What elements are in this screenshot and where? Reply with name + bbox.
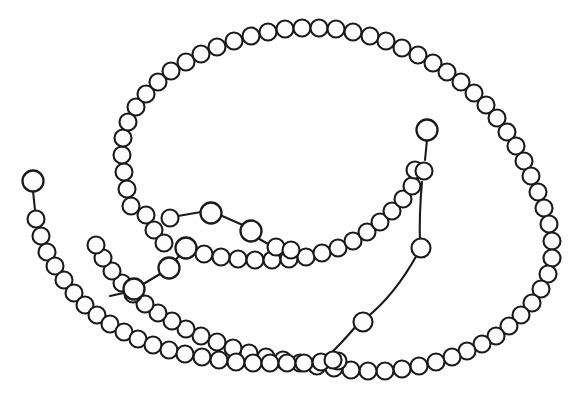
bead [88,237,105,254]
bead [114,147,131,164]
bead [177,346,194,363]
bead [360,363,377,380]
cord-left-stem [33,191,35,210]
bead [394,361,411,378]
bead [294,20,311,37]
bead [523,168,540,185]
cord-right-b [366,253,418,318]
bead-large [176,238,197,259]
bead [163,63,180,80]
strand-outer-loop [88,20,561,380]
bead [296,355,313,372]
bead [33,228,50,245]
bead [115,130,132,147]
strand-left-tail [23,171,347,372]
bead [194,349,211,366]
bead [260,24,277,41]
cord-inner-b [220,215,245,226]
bead [156,235,173,252]
bead [162,210,179,227]
drawing-canvas: Beaded Chain Line Drawing Line drawing o… [0,0,578,403]
bead [412,239,431,258]
bead [416,163,433,180]
bead [311,20,328,37]
bead [262,355,279,372]
bead [213,249,230,266]
cord-inner-a [178,212,201,216]
bead [377,363,394,380]
cord-right-stem [425,140,427,160]
bead [283,242,300,259]
bead [230,251,247,268]
bead [119,181,136,198]
bead [243,28,260,45]
bead [328,21,345,38]
bead [209,334,226,351]
bead [345,24,362,41]
bead [378,33,395,50]
bead-large [241,221,262,242]
bead [314,245,331,262]
bead [536,200,553,217]
bead-end-right [417,120,438,141]
bead [541,216,558,233]
bead [404,178,421,195]
bead [161,342,178,359]
bead [354,313,373,332]
bead-end-left [23,171,44,192]
bead [196,246,213,263]
bead [544,233,561,250]
bead [444,349,461,366]
bead [247,252,264,269]
bead [325,352,342,369]
bead [193,46,210,63]
bead-large [159,258,180,279]
bead-large [201,203,222,224]
bead [394,40,411,57]
bead [116,164,133,181]
bead [277,21,294,38]
bead [226,33,243,50]
bead [28,211,45,228]
bead [530,184,547,201]
bead [145,337,162,354]
bead-large [124,279,145,300]
bead [411,358,428,375]
bead [279,355,296,372]
bead [123,198,140,215]
bead [211,352,228,369]
bead [428,354,445,371]
bead [245,355,262,372]
bead [544,250,561,267]
bead [228,354,245,371]
bead [209,39,226,56]
cord-right-a [420,182,422,243]
bead [362,28,379,45]
beaded-chain-illustration [0,0,578,403]
